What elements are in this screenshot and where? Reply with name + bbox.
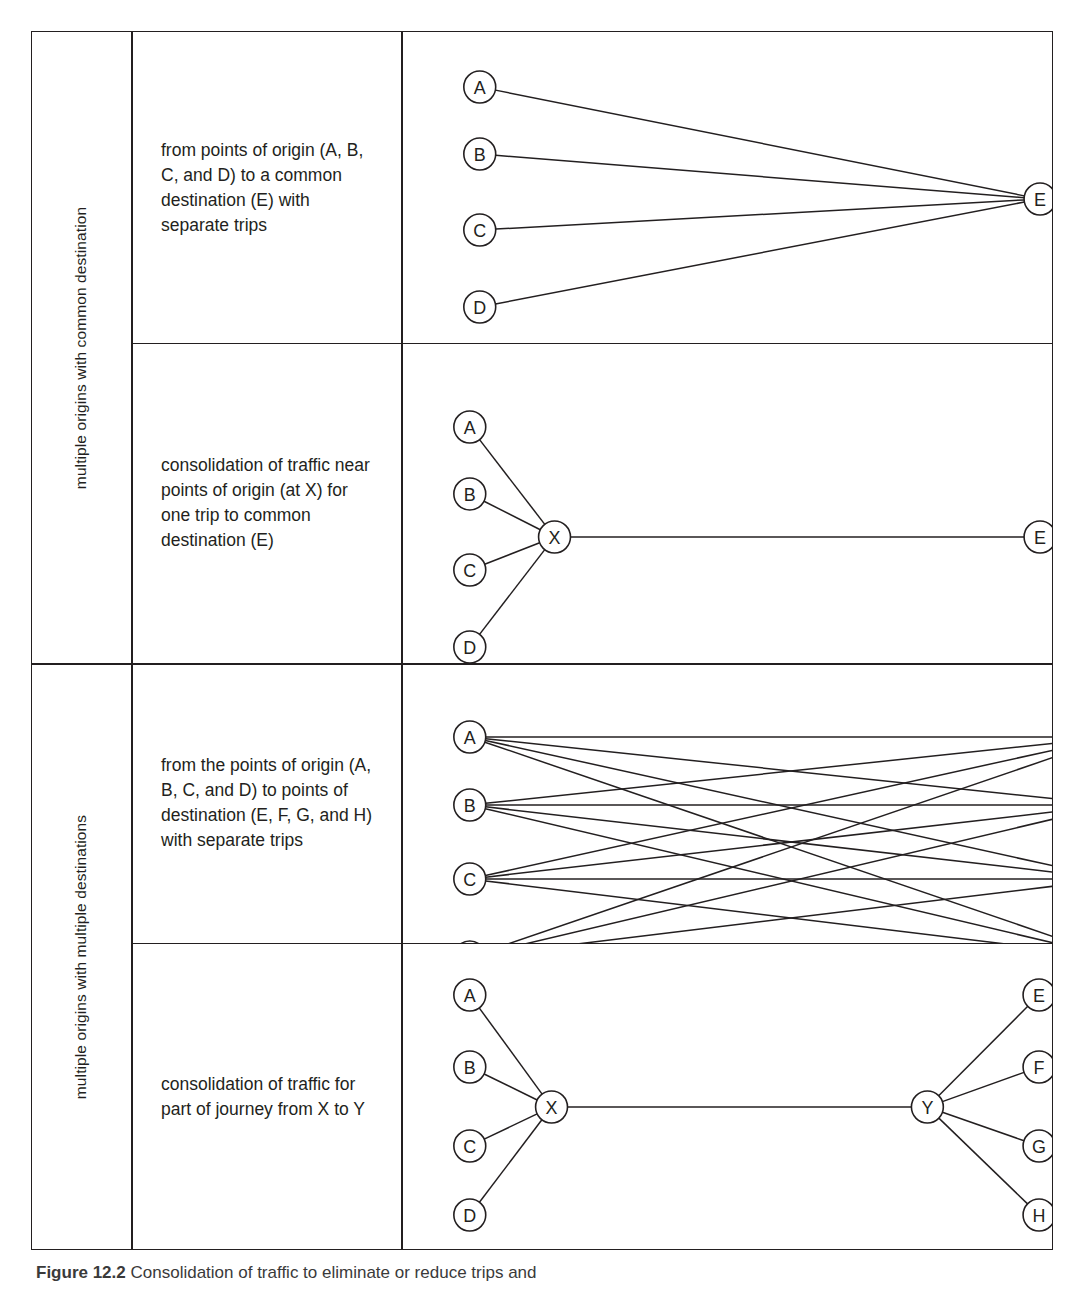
edge-C-E (496, 200, 1024, 229)
node-D: D (464, 291, 496, 323)
description-text: from the points of origin (A, B, C, and … (161, 753, 375, 853)
node-label-D: D (463, 1206, 476, 1226)
node-E: E (1024, 183, 1052, 215)
node-A: A (454, 979, 486, 1011)
node-label-D: D (463, 638, 476, 658)
node-label-X: X (549, 528, 561, 548)
edge-B-G (486, 807, 1052, 877)
node-F: F (1023, 1051, 1052, 1083)
node-C: C (464, 214, 496, 246)
edge-Y-G (942, 1112, 1024, 1140)
node-label-B: B (464, 1058, 476, 1078)
node-B: B (454, 1051, 486, 1083)
edge-A-E (495, 90, 1024, 196)
node-label-H: H (1033, 1206, 1046, 1226)
node-label-B: B (464, 485, 476, 505)
node-B: B (454, 789, 486, 821)
node-X: X (536, 1091, 568, 1123)
node-X: X (539, 521, 571, 553)
description-text: consolidation of traffic near points of … (161, 453, 375, 553)
node-label-A: A (464, 986, 476, 1006)
edge-D-E (495, 202, 1024, 304)
node-H: H (1023, 1199, 1052, 1231)
group-label-text: multiple origins with common destination (73, 206, 91, 488)
node-label-A: A (464, 728, 476, 748)
figure-caption: Figure 12.2 Consolidation of traffic to … (36, 1262, 1036, 1284)
node-Y: Y (911, 1091, 943, 1123)
node-D: D (454, 1199, 486, 1231)
node-label-X: X (546, 1098, 558, 1118)
description-text: consolidation of traffic for part of jou… (161, 1072, 375, 1122)
node-label-G: G (1032, 1137, 1046, 1157)
edge-B-E (496, 155, 1024, 197)
node-label-E: E (1034, 190, 1046, 210)
node-E: E (1024, 521, 1052, 553)
node-C: C (454, 863, 486, 895)
node-C: C (454, 554, 486, 586)
edge-A-H (485, 742, 1052, 943)
node-B: B (454, 478, 486, 510)
node-D: D (454, 631, 486, 663)
node-E: E (1023, 979, 1052, 1011)
figure-table: multiple origins with common destination… (31, 31, 1053, 1250)
edge-C-F (486, 807, 1052, 877)
edge-D-E (485, 742, 1052, 943)
node-C: C (454, 1130, 486, 1162)
description-cell-row-4: consolidation of traffic for part of jou… (131, 943, 401, 1251)
edge-B-X (484, 1074, 537, 1100)
node-label-E: E (1034, 528, 1046, 548)
group-label-text: multiple origins with multiple destinati… (73, 815, 91, 1099)
node-A: A (464, 71, 496, 103)
diagram-panel-row-1: ABCDE (401, 32, 1052, 343)
edge-A-X (480, 440, 545, 525)
description-text: from points of origin (A, B, C, and D) t… (161, 138, 375, 238)
caption-text: Consolidation of traffic to eliminate or… (131, 1263, 537, 1282)
node-G: G (1023, 1130, 1052, 1162)
node-label-D: D (473, 298, 486, 318)
node-label-A: A (474, 78, 486, 98)
node-label-F: F (1034, 1058, 1045, 1078)
diagram-panel-row-2: ABCDXE (401, 343, 1052, 663)
node-label-C: C (463, 561, 476, 581)
node-label-B: B (474, 145, 486, 165)
node-label-C: C (473, 221, 486, 241)
edge-C-X (485, 543, 540, 564)
node-label-C: C (463, 1137, 476, 1157)
node-label-Y: Y (921, 1098, 933, 1118)
description-cell-row-1: from points of origin (A, B, C, and D) t… (131, 32, 401, 343)
edge-A-X (479, 1008, 542, 1094)
node-label-A: A (464, 418, 476, 438)
caption-label: Figure 12.2 (36, 1263, 126, 1282)
edge-Y-E (939, 1006, 1028, 1095)
edge-B-X (484, 501, 540, 530)
node-A: A (454, 411, 486, 443)
description-cell-row-2: consolidation of traffic near points of … (131, 343, 401, 663)
group-label-multiple-destinations: multiple origins with multiple destinati… (32, 663, 131, 1251)
edge-Y-F (942, 1072, 1024, 1101)
group-label-common-destination: multiple origins with common destination (32, 32, 131, 663)
edge-D-X (479, 1120, 541, 1203)
description-cell-row-3: from the points of origin (A, B, C, and … (131, 663, 401, 943)
node-A: A (454, 721, 486, 753)
node-label-B: B (464, 796, 476, 816)
node-label-E: E (1033, 986, 1045, 1006)
diagram-panel-row-3: ABCDEFGH (401, 663, 1052, 943)
edge-Y-H (939, 1118, 1028, 1204)
node-B: B (464, 138, 496, 170)
diagram-panel-row-4: ABCDXYEFGH (401, 943, 1052, 1251)
node-label-C: C (463, 870, 476, 890)
